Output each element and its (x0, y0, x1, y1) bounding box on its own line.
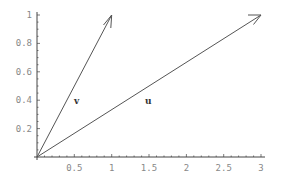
y-tick-label: 0.8 (16, 38, 32, 48)
x-tick-label: 1.5 (141, 163, 157, 173)
vector-v-label: v (73, 96, 80, 106)
y-tick-label: 1 (27, 10, 32, 20)
x-tick-label: 2.5 (216, 163, 232, 173)
vector-u (37, 15, 261, 157)
y-tick-label: 0.6 (16, 67, 32, 77)
vector-v (37, 15, 112, 157)
vector-plot: 0.5 1 1.5 2 2.5 3 0.2 0.4 0.6 0.8 1 v u (0, 0, 281, 179)
y-tick-label: 0.2 (16, 124, 32, 134)
vector-u-label: u (145, 96, 152, 106)
x-tick-label: 0.5 (66, 163, 82, 173)
y-tick-label: 0.4 (16, 95, 32, 105)
x-tick-label: 1 (109, 163, 114, 173)
x-tick-label: 3 (258, 163, 263, 173)
x-tick-label: 2 (184, 163, 189, 173)
